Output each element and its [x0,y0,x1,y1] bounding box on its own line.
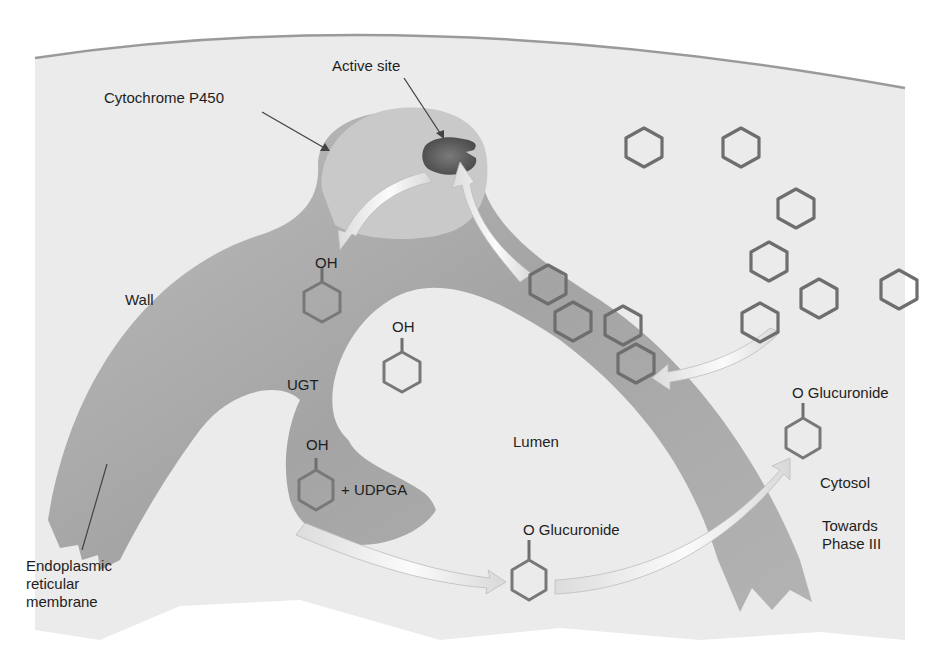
label-oh-wall: OH [315,254,338,272]
label-lumen: Lumen [513,433,559,451]
active-site [422,137,476,175]
label-ugt: UGT [287,376,319,394]
label-glucuronide-cytosol: O Glucuronide [792,384,889,402]
label-active-site: Active site [332,57,400,75]
label-cytochrome-p450: Cytochrome P450 [104,89,224,107]
label-wall: Wall [125,291,154,309]
label-cytosol: Cytosol [820,474,870,492]
label-er-membrane: Endoplasmic reticular membrane [26,557,112,611]
label-towards-phase-iii: Towards Phase III [822,517,881,553]
label-udpga: + UDPGA [341,481,407,499]
label-glucuronide-lumen: O Glucuronide [523,521,620,539]
label-oh-lumen: OH [392,318,415,336]
label-oh-udpga: OH [306,436,329,454]
